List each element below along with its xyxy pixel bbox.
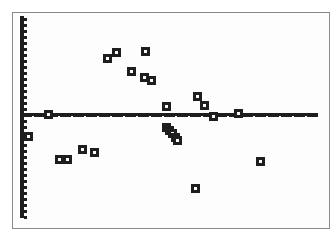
data-point-hole [237,112,240,115]
data-point-hole [194,187,197,190]
y-axis-tick [24,18,27,21]
y-axis-tick [24,102,27,105]
data-point-hole [176,139,179,142]
y-axis-tick [24,198,27,201]
x-axis-tick-gap [279,116,281,118]
y-axis-tick [24,72,27,75]
y-axis-tick [24,192,27,195]
data-point-hole [47,113,50,116]
data-point-hole [143,76,146,79]
y-axis-tick [24,216,27,219]
y-axis-tick [24,84,27,87]
x-axis-tick-gap [162,116,164,118]
x-axis-tick-gap [253,116,255,118]
y-axis-tick [24,54,27,57]
y-axis-tick [24,96,27,99]
x-axis-tick-gap [84,116,86,118]
data-point-hole [212,115,215,118]
y-axis-tick [24,78,27,81]
y-axis-tick [24,168,27,171]
y-axis-tick [24,48,27,51]
data-point-hole [196,95,199,98]
y-axis-tick [24,204,27,207]
data-point-hole [106,57,109,60]
x-axis-tick-gap [97,116,99,118]
data-point-hole [93,151,96,154]
y-axis-tick [24,120,27,123]
data-point-hole [144,50,147,53]
y-axis-tick [24,144,27,147]
x-axis-tick-gap [227,116,229,118]
data-point-hole [150,79,153,82]
x-axis-tick-gap [136,116,138,118]
x-axis-tick-gap [201,116,203,118]
y-axis-tick [24,66,27,69]
y-axis-tick [24,162,27,165]
y-axis-tick [24,90,27,93]
x-axis-tick-gap [58,116,60,118]
y-axis-tick [24,108,27,111]
y-axis-tick [24,180,27,183]
y-axis-tick [24,186,27,189]
scatter-plot [0,0,334,234]
data-point-hole [130,70,133,73]
x-axis-tick-gap [110,116,112,118]
x-axis-tick-gap [266,116,268,118]
y-axis-tick [24,30,27,33]
x-axis-tick-gap [123,116,125,118]
data-point-hole [115,51,118,54]
y-axis-tick [24,24,27,27]
data-point-hole [27,135,30,138]
x-axis-tick-gap [292,116,294,118]
data-point-hole [259,160,262,163]
y-axis-tick [24,42,27,45]
x-axis-tick-gap [71,116,73,118]
x-axis-tick-gap [188,116,190,118]
y-axis-tick [24,60,27,63]
y-axis-tick [24,150,27,153]
data-point-hole [203,104,206,107]
x-axis-tick-gap [305,116,307,118]
y-axis-tick [24,126,27,129]
data-point-hole [66,158,69,161]
x-axis-tick-gap [32,116,34,118]
y-axis-tick [24,156,27,159]
data-point-hole [81,148,84,151]
y-axis-tick [24,210,27,213]
data-point-hole [165,105,168,108]
data-point-hole [58,158,61,161]
x-axis [22,113,318,117]
y-axis-tick [24,174,27,177]
x-axis-tick-gap [175,116,177,118]
y-axis-tick [24,36,27,39]
x-axis-tick-gap [149,116,151,118]
